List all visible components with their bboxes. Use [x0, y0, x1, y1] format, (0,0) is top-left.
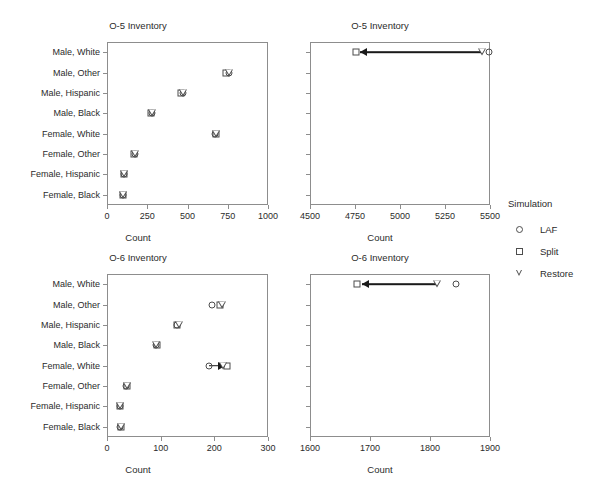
legend-entry-laf[interactable]: LAF: [508, 219, 573, 239]
legend-entry-label: Restore: [530, 268, 573, 279]
y-axis-tick-mark: [306, 113, 310, 114]
x-axis-tick-mark: [268, 205, 269, 209]
legend-entry-label: LAF: [530, 224, 557, 235]
x-axis-tick-mark: [228, 205, 229, 209]
y-axis-tick-mark: [103, 305, 107, 306]
panel-o5-upper: O-5 Inventory Count 45004750500052505500: [276, 20, 496, 250]
y-axis-tick-mark: [103, 52, 107, 53]
y-axis-tick-label: Female, Black: [43, 422, 100, 432]
x-axis-tick-label: 100: [153, 443, 168, 453]
point-circle-open-icon: [452, 281, 459, 288]
y-axis-tick-mark: [306, 93, 310, 94]
point-triangle-down-open-icon: [123, 383, 131, 390]
y-axis-tick-mark: [103, 325, 107, 326]
point-triangle-down-open-icon: [131, 151, 139, 158]
plot-area: [310, 42, 490, 205]
y-axis-tick-mark: [306, 386, 310, 387]
x-axis-title: Count: [270, 464, 490, 475]
legend-symbol: [508, 223, 530, 235]
point-triangle-down-open-icon: [212, 130, 220, 137]
x-axis-tick-label: 750: [220, 211, 235, 221]
point-triangle-down-open-icon: [117, 423, 125, 430]
y-axis-tick-label: Male, Hispanic: [41, 320, 100, 330]
x-axis-tick-mark: [107, 205, 108, 209]
y-axis-tick-label: Female, White: [42, 129, 100, 139]
circle-open-icon: [516, 226, 523, 233]
x-axis-tick-label: 200: [207, 443, 222, 453]
point-triangle-down-open-icon: [219, 362, 227, 369]
legend-symbol: [508, 267, 530, 279]
y-axis-tick-label: Male, White: [52, 47, 100, 57]
y-axis-tick-mark: [103, 154, 107, 155]
y-axis-tick-mark: [306, 284, 310, 285]
x-axis-title: Count: [270, 232, 490, 243]
y-axis-tick-mark: [103, 113, 107, 114]
y-axis-tick-label: Female, Hispanic: [30, 169, 100, 179]
y-axis-tick-mark: [306, 134, 310, 135]
x-axis-tick-mark: [214, 437, 215, 441]
plot-area: [310, 274, 490, 437]
point-circle-open-icon: [209, 301, 216, 308]
panel-title: O-5 Inventory: [0, 20, 276, 32]
point-circle-open-icon: [486, 49, 493, 56]
y-axis-tick-mark: [306, 366, 310, 367]
x-axis-tick-mark: [430, 437, 431, 441]
legend-entry-restore[interactable]: Restore: [508, 263, 573, 283]
x-axis-tick-mark: [355, 205, 356, 209]
figure-supertitle: [0, 0, 594, 4]
y-axis-tick-label: Male, Black: [53, 108, 100, 118]
x-axis-tick-mark: [445, 205, 446, 209]
x-axis-tick-mark: [370, 437, 371, 441]
x-axis-tick-mark: [268, 437, 269, 441]
y-axis-tick-mark: [103, 345, 107, 346]
point-triangle-down-open-icon: [116, 403, 124, 410]
point-triangle-down-open-icon: [148, 110, 156, 117]
y-axis-tick-label: Male, Other: [53, 68, 100, 78]
y-axis-tick-label: Male, Black: [53, 340, 100, 350]
x-axis-tick-mark: [310, 205, 311, 209]
panel-o6-lower: O-6 Inventory Count Male, WhiteMale, Oth…: [0, 252, 276, 487]
legend-entries: LAFSplitRestore: [508, 219, 573, 283]
y-axis-tick-mark: [103, 406, 107, 407]
x-axis-tick-label: 4750: [345, 211, 365, 221]
plot-area: [107, 42, 268, 205]
legend: Simulation LAFSplitRestore: [508, 198, 573, 285]
y-axis-tick-mark: [306, 73, 310, 74]
y-axis-tick-mark: [103, 284, 107, 285]
y-axis-tick-mark: [306, 305, 310, 306]
change-arrow-shaft: [360, 51, 482, 53]
x-axis-tick-label: 0: [104, 211, 109, 221]
x-axis-tick-label: 1900: [480, 443, 500, 453]
x-axis-tick-mark: [490, 205, 491, 209]
point-triangle-down-open-icon: [119, 191, 127, 198]
x-axis-tick-mark: [490, 437, 491, 441]
y-axis-tick-label: Female, Other: [42, 149, 100, 159]
y-axis-tick-mark: [103, 195, 107, 196]
change-arrow-head-icon: [362, 280, 369, 288]
x-axis-tick-mark: [147, 205, 148, 209]
y-axis-tick-label: Female, Black: [43, 190, 100, 200]
plot-area: [107, 274, 268, 437]
panel-title: O-6 Inventory: [0, 252, 276, 264]
legend-title: Simulation: [508, 198, 573, 209]
x-axis-tick-label: 250: [140, 211, 155, 221]
legend-entry-split[interactable]: Split: [508, 241, 573, 261]
point-circle-open-icon: [205, 362, 212, 369]
point-triangle-down-open-icon: [179, 89, 187, 96]
y-axis-tick-mark: [103, 93, 107, 94]
y-axis-tick-label: Male, White: [52, 279, 100, 289]
change-arrow-head-icon: [360, 48, 367, 56]
x-axis-tick-label: 5000: [390, 211, 410, 221]
x-axis-tick-mark: [400, 205, 401, 209]
y-axis-tick-mark: [103, 73, 107, 74]
point-triangle-down-open-icon: [433, 281, 441, 288]
x-axis-tick-label: 1000: [258, 211, 278, 221]
x-axis-title: Count: [0, 232, 276, 243]
y-axis-tick-label: Male, Other: [53, 300, 100, 310]
y-axis-tick-mark: [306, 325, 310, 326]
y-axis-tick-label: Male, Hispanic: [41, 88, 100, 98]
x-axis-tick-label: 0: [104, 443, 109, 453]
square-open-icon: [516, 248, 523, 255]
y-axis-tick-mark: [306, 345, 310, 346]
x-axis-tick-mark: [310, 437, 311, 441]
